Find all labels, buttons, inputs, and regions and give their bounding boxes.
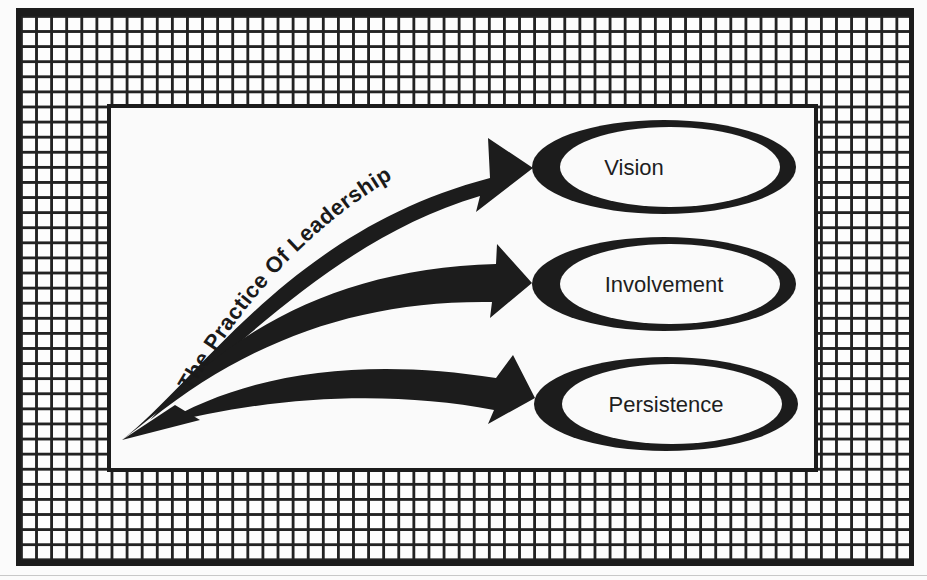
practice-of-leadership-label: The Practice Of Leadership	[173, 161, 396, 394]
persistence-label: Persistence	[609, 392, 724, 417]
diagram-canvas: The Practice Of Leadership Vision Involv…	[0, 0, 927, 580]
vision-label: Vision	[604, 155, 664, 180]
oval-involvement: Involvement	[532, 237, 796, 331]
oval-vision: Vision	[532, 120, 796, 214]
oval-persistence: Persistence	[534, 357, 798, 451]
leadership-diagram: The Practice Of Leadership Vision Involv…	[0, 0, 927, 580]
involvement-label: Involvement	[605, 272, 724, 297]
